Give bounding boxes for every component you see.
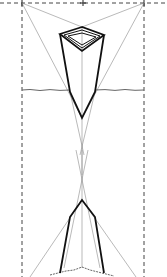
vanishing-point-marks (22, 0, 144, 6)
diagram-canvas (0, 0, 167, 277)
